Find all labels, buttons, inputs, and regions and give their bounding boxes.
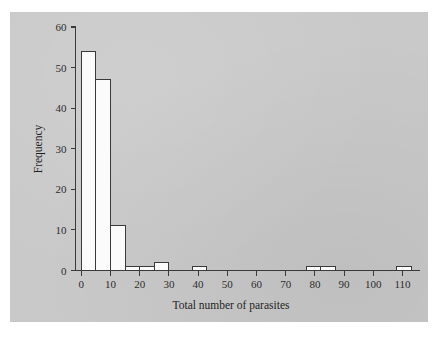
x-tick-label: 40 [193,278,205,290]
histogram-bar [306,266,321,270]
histogram-bar [140,266,155,270]
x-tick-label: 30 [163,278,175,290]
histogram-bar [81,51,96,270]
histogram-bar [321,266,336,270]
histogram-bar [96,80,111,271]
x-tick-label: 20 [134,278,146,290]
x-tick-label: 110 [394,278,411,290]
bars-group [81,51,411,270]
y-tick-label: 0 [61,265,67,277]
histogram-bar [111,226,126,271]
x-tick-label: 70 [280,278,292,290]
x-tick-label: 50 [222,278,234,290]
y-tick-label: 20 [56,183,68,195]
x-tick-label: 60 [251,278,263,290]
x-tick-label: 90 [339,278,351,290]
histogram-figure: 0102030405060708090100110 0102030405060 … [0,0,442,337]
y-tick-label: 60 [56,21,68,33]
x-tick-label: 80 [309,278,321,290]
x-tick-label: 100 [365,278,382,290]
histogram-bar [154,262,169,270]
histogram-bar [192,266,207,270]
axes-group [76,27,421,271]
x-axis-title: Total number of parasites [172,299,290,312]
y-tick-label: 30 [56,143,68,155]
histogram-plot: 0102030405060708090100110 0102030405060 … [0,0,442,337]
x-tick-label: 10 [105,278,117,290]
x-ticks-group: 0102030405060708090100110 [79,271,411,290]
y-tick-label: 50 [56,62,68,74]
y-axis-title: Frequency [32,124,45,173]
x-tick-label: 0 [79,278,85,290]
y-ticks-group: 0102030405060 [56,21,76,277]
histogram-bar [125,266,140,270]
y-tick-label: 10 [56,224,68,236]
histogram-bar [397,266,412,270]
y-tick-label: 40 [56,102,68,114]
